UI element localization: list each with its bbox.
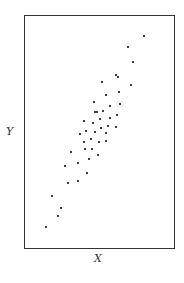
data-point	[57, 215, 59, 217]
data-point	[91, 148, 93, 150]
data-point	[70, 151, 72, 153]
y-axis-label: Y	[6, 125, 13, 138]
data-point	[130, 84, 132, 86]
data-point	[79, 133, 81, 135]
scatter-plot	[0, 0, 184, 283]
data-point	[143, 35, 145, 37]
data-point	[88, 158, 90, 160]
plot-frame	[25, 16, 175, 249]
data-point	[109, 105, 111, 107]
data-point	[105, 94, 107, 96]
data-point	[98, 141, 100, 143]
data-point	[92, 122, 94, 124]
data-point	[94, 111, 96, 113]
data-point	[116, 114, 118, 116]
data-point	[86, 172, 88, 174]
data-point	[127, 46, 129, 48]
data-point	[115, 74, 117, 76]
x-axis-label: X	[94, 252, 102, 265]
data-point	[77, 162, 79, 164]
data-point	[96, 111, 98, 113]
data-point	[83, 141, 85, 143]
data-point	[45, 226, 47, 228]
data-point	[105, 140, 107, 142]
data-point	[51, 195, 53, 197]
data-point	[99, 118, 101, 120]
data-point	[64, 165, 66, 167]
data-point	[97, 154, 99, 156]
data-point	[85, 130, 87, 132]
data-point	[77, 180, 79, 182]
data-point	[119, 103, 121, 105]
data-point	[105, 132, 107, 134]
data-point	[115, 126, 117, 128]
data-point	[132, 61, 134, 63]
data-point	[101, 81, 103, 83]
data-point	[84, 148, 86, 150]
data-point	[90, 138, 92, 140]
data-point	[60, 207, 62, 209]
data-point	[107, 125, 109, 127]
data-point	[83, 120, 85, 122]
data-point	[67, 182, 69, 184]
data-point	[117, 76, 119, 78]
data-point	[102, 110, 104, 112]
data-point	[109, 117, 111, 119]
data-point	[118, 91, 120, 93]
data-point	[94, 131, 96, 133]
data-points	[45, 35, 145, 228]
data-point	[93, 101, 95, 103]
data-point	[100, 127, 102, 129]
